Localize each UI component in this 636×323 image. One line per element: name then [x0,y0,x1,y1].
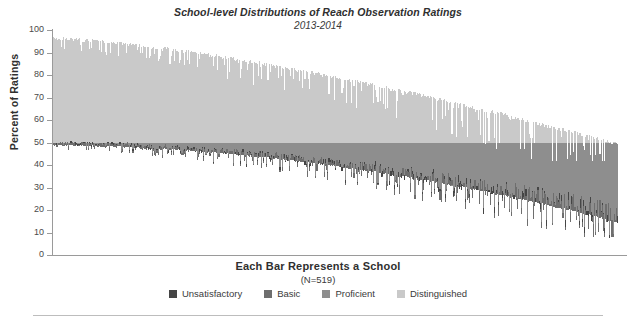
y-tick-label: 10 [0,228,44,237]
x-axis-sample-size: (N=519) [0,273,636,286]
page-title: School-level Distributions of Reach Obse… [0,6,636,19]
y-tick-label: 50 [0,138,44,147]
title-block: School-level Distributions of Reach Obse… [0,6,636,32]
stacked-bars [53,30,618,255]
legend-item-distinguished: Distinguished [397,289,467,299]
legend-swatch-icon [397,290,405,298]
legend-label: Proficient [335,289,375,299]
y-tick-label: 30 [0,183,44,192]
legend-swatch-icon [322,290,330,298]
y-tick-label: 60 [0,115,44,124]
y-tick-label: 20 [0,205,44,214]
plot-area [53,30,618,255]
footer-divider [33,315,603,316]
legend-swatch-icon [169,290,177,298]
x-axis-title: Each Bar Represents a School [0,259,636,273]
legend-label: Distinguished [410,289,467,299]
y-tick-label: 90 [0,48,44,57]
chart-legend: UnsatisfactoryBasicProficientDistinguish… [0,289,636,299]
legend-swatch-icon [264,290,272,298]
legend-label: Unsatisfactory [182,289,242,299]
legend-label: Basic [277,289,300,299]
y-tick-label: 40 [0,160,44,169]
legend-item-proficient: Proficient [322,289,375,299]
legend-item-basic: Basic [264,289,300,299]
x-axis-line [52,255,627,256]
y-tick-label: 70 [0,93,44,102]
y-tick-label: 100 [0,25,44,34]
y-tick-label: 80 [0,70,44,79]
legend-item-unsatisfactory: Unsatisfactory [169,289,242,299]
chart-figure: School-level Distributions of Reach Obse… [0,0,636,323]
y-tick-label: 0 [0,250,44,259]
x-axis-caption: Each Bar Represents a School (N=519) [0,259,636,286]
